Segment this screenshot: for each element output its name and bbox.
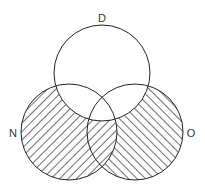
label-d: D	[98, 12, 106, 24]
label-n: N	[9, 127, 17, 139]
label-o: O	[187, 127, 196, 139]
venn-diagram: D N O	[0, 0, 205, 190]
